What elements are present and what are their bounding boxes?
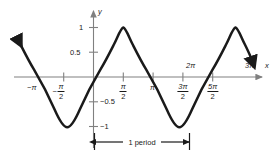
x-tick-label-pi-over-2: π 2 [120, 83, 127, 100]
y-axis-label: y [98, 8, 102, 16]
period-annotation-label: 1 period [126, 138, 157, 147]
denominator: 2 [207, 93, 218, 101]
x-axis-label: x [265, 62, 269, 70]
y-tick-label-neg1: −1 [100, 123, 109, 131]
x-tick-label-pi: π [150, 84, 155, 92]
numerator: π [120, 83, 127, 91]
x-tick-label-neg-pi-over-2: − π 2 [57, 83, 64, 100]
minus-sign: − [52, 88, 56, 96]
numerator: 5π [207, 83, 218, 91]
numerator: π [57, 83, 64, 91]
y-tick-label-neg0.5: −0.5 [100, 98, 115, 106]
x-tick-label-3pi-over-2: 3π 2 [177, 83, 188, 100]
denominator: 2 [120, 93, 127, 101]
figure-container: y x 1 0.5 −0.5 −1 −π − π 2 π 2 π 3π 2 2π… [0, 0, 275, 158]
numerator: 3π [177, 83, 188, 91]
x-tick-label-5pi-over-2: 5π 2 [207, 83, 218, 100]
x-tick-label-3pi: 3π [245, 62, 254, 70]
sine-wave-plot [0, 0, 275, 158]
denominator: 2 [177, 93, 188, 101]
y-tick-label-1: 1 [79, 24, 83, 32]
x-tick-label-2pi: 2π [186, 62, 195, 70]
y-tick-label-0.5: 0.5 [70, 49, 80, 57]
denominator: 2 [57, 93, 64, 101]
x-tick-label-neg-pi: −π [27, 84, 36, 92]
